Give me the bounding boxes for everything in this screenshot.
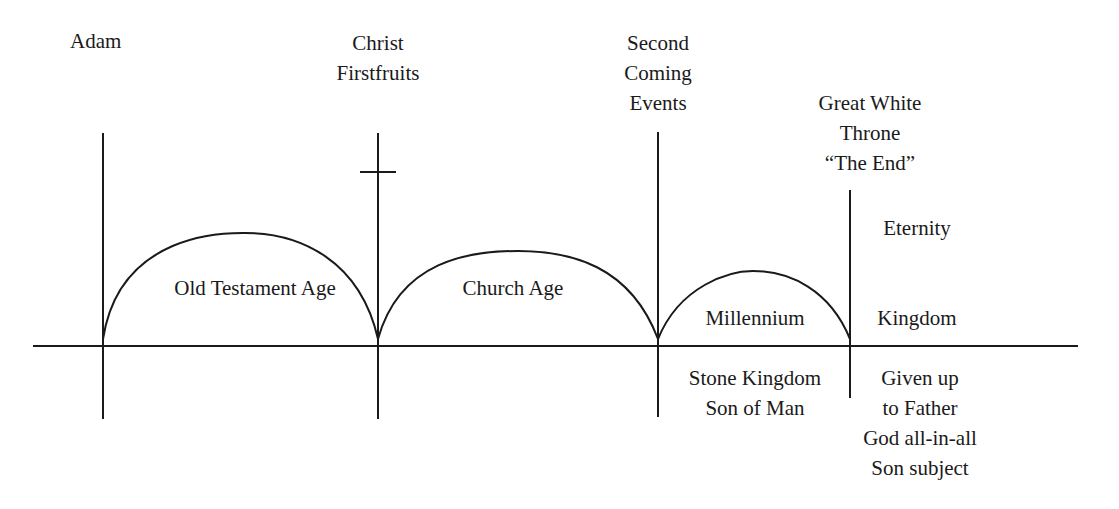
label-church-age: Church Age: [438, 273, 588, 303]
label-kingdom-below: Given up to Father God all-in-all Son su…: [850, 363, 990, 483]
label-millennium: Millennium: [680, 303, 830, 333]
label-adam: Adam: [70, 26, 160, 56]
label-millennium-below: Stone Kingdom Son of Man: [670, 363, 840, 423]
label-great-white-throne: Great White Throne “The End”: [800, 88, 940, 178]
label-eternity: Eternity: [862, 213, 972, 243]
label-kingdom: Kingdom: [862, 303, 972, 333]
label-second-coming-events: Second Coming Events: [608, 28, 708, 118]
label-christ-firstfruits: Christ Firstfruits: [308, 28, 448, 88]
label-old-testament-age: Old Testament Age: [155, 273, 355, 303]
